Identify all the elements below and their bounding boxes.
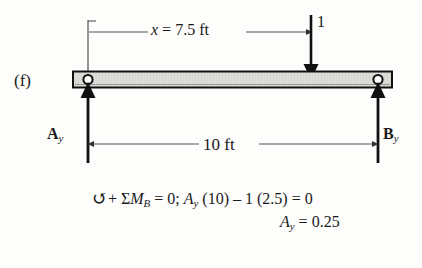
span-dimension-label: 10 ft <box>203 136 235 153</box>
reaction-subscript-b: y <box>394 132 399 144</box>
equation-equals-zero: = 0; <box>150 190 183 207</box>
beam-member <box>73 72 392 88</box>
equation-moment-symbol: M <box>130 190 143 207</box>
load-magnitude-label: 1 <box>317 14 325 30</box>
equation-remainder: (10) – 1 (2.5) = 0 <box>198 190 312 207</box>
reaction-label-by: By <box>383 126 399 144</box>
load-position-dimension-label: x = 7.5 ft <box>151 22 209 38</box>
reaction-letter-a: A <box>47 125 59 142</box>
reaction-letter-b: B <box>383 125 394 142</box>
result-ay-letter: A <box>280 213 290 230</box>
witness-line-left <box>88 20 96 78</box>
equilibrium-result-line: Ay = 0.25 <box>280 214 340 232</box>
reaction-arrow-by <box>371 82 386 163</box>
moment-direction-icon: ↺ <box>92 189 108 208</box>
result-ay-value: = 0.25 <box>295 213 340 230</box>
equation-ay-letter: A <box>184 190 194 207</box>
equation-sum-prefix: + Σ <box>108 190 130 207</box>
load-position-value: = 7.5 ft <box>158 21 209 38</box>
reaction-label-ay: Ay <box>47 126 63 144</box>
figure-index-label: (f) <box>14 72 31 89</box>
figure-canvas: (f) x = 7.5 ft 1 Ay By 10 ft ↺+ ΣMB = 0;… <box>0 0 422 268</box>
equilibrium-equation-line: ↺+ ΣMB = 0; Ay (10) – 1 (2.5) = 0 <box>92 188 313 209</box>
reaction-subscript-a: y <box>59 132 64 144</box>
reaction-arrow-ay <box>81 82 96 163</box>
